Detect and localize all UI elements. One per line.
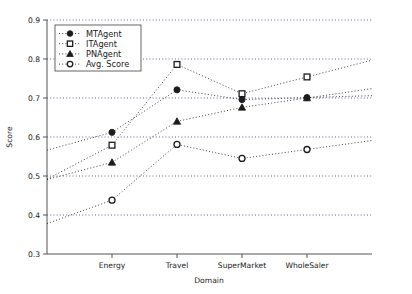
data-point-marker-open-circle	[174, 141, 180, 147]
data-point-marker-filled-circle	[67, 31, 73, 37]
data-point-marker-open-square	[67, 41, 72, 46]
x-tick-label: Travel	[165, 261, 189, 270]
data-point-marker-open-square	[304, 74, 310, 80]
data-point-marker-filled-circle	[174, 87, 180, 93]
chart-canvas: 0.30.40.50.60.70.80.9 EnergyTravelSuperM…	[0, 0, 412, 294]
legend-item-label: PNAgent	[86, 49, 122, 59]
chart-legend[interactable]: MTAgentITAgentPNAgentAvg. Score	[55, 25, 141, 71]
y-tick-label: 0.4	[28, 211, 40, 220]
x-tick-label: Energy	[99, 261, 126, 270]
data-point-marker-open-circle	[304, 146, 310, 152]
data-point-marker-open-square	[239, 91, 245, 97]
y-tick-label: 0.3	[28, 250, 40, 259]
data-point-marker-filled-circle	[239, 96, 245, 102]
y-tick-label: 0.6	[28, 133, 40, 142]
y-tick-label: 0.7	[28, 94, 40, 103]
data-point-marker-filled-circle	[109, 129, 115, 135]
y-axis-ticks: 0.30.40.50.60.70.80.9	[28, 16, 47, 259]
legend-item-label: Avg. Score	[86, 59, 129, 69]
y-axis-title: Score	[5, 126, 14, 148]
data-point-marker-open-circle	[67, 61, 73, 67]
x-axis-title: Domain	[194, 276, 224, 285]
x-tick-label: WholeSaler	[285, 261, 329, 270]
x-tick-label: SuperMarket	[218, 261, 266, 270]
legend-item-label: MTAgent	[86, 29, 122, 39]
y-tick-label: 0.9	[28, 16, 40, 25]
x-axis-ticks: EnergyTravelSuperMarketWholeSaler	[99, 254, 330, 270]
chart-figure: 0.30.40.50.60.70.80.9 EnergyTravelSuperM…	[0, 0, 412, 294]
y-tick-label: 0.5	[28, 172, 40, 181]
legend-item-label: ITAgent	[86, 39, 118, 49]
data-point-marker-open-square	[109, 142, 115, 148]
data-point-marker-open-circle	[109, 197, 115, 203]
data-point-marker-open-circle	[239, 155, 245, 161]
y-tick-label: 0.8	[28, 55, 40, 64]
data-point-marker-open-square	[174, 62, 180, 68]
